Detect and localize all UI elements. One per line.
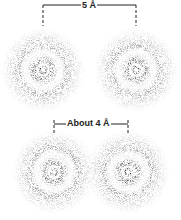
- bottom-pair: [12, 120, 170, 214]
- atomic-electron-cloud-diagram: 5 Å About 4 Å: [0, 0, 181, 220]
- diagram-canvas: [0, 0, 181, 220]
- distance-label-about-4a: About 4 Å: [66, 118, 111, 128]
- top-pair: [1, 5, 178, 112]
- distance-label-5a: 5 Å: [81, 0, 97, 10]
